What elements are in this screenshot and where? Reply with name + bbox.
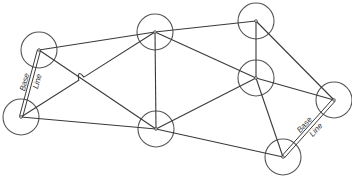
side-a-d	[39, 50, 156, 129]
side-c-d	[155, 32, 156, 129]
station-point-h	[282, 156, 285, 159]
side-b-c	[21, 32, 155, 117]
base-label-bottom: Line	[31, 72, 44, 89]
station-point-e	[255, 20, 258, 23]
triangulation-diagram: BaseLineBaseLine	[0, 0, 352, 177]
base-line-1: BaseLine	[18, 50, 44, 118]
station-point-b	[20, 116, 23, 119]
side-a-c	[39, 32, 155, 50]
station-point-f	[255, 77, 258, 80]
side-d-f	[156, 78, 256, 129]
side-d-h	[156, 129, 283, 157]
station-point-a	[38, 49, 41, 52]
side-c-f	[155, 32, 256, 78]
station-points	[20, 20, 336, 159]
base-line-2: BaseLine	[282, 99, 335, 158]
side-f-g	[256, 78, 334, 100]
diagram-svg: BaseLineBaseLine	[0, 0, 352, 177]
side-b-d	[21, 117, 156, 129]
side-e-g	[256, 21, 334, 100]
station-circles	[3, 3, 352, 175]
station-point-c	[154, 31, 157, 34]
base-label-top: Base	[18, 72, 32, 92]
station-point-d	[155, 128, 158, 131]
station-point-g	[333, 99, 336, 102]
triangle-sides	[21, 21, 334, 157]
base-lines: BaseLineBaseLine	[18, 50, 335, 158]
